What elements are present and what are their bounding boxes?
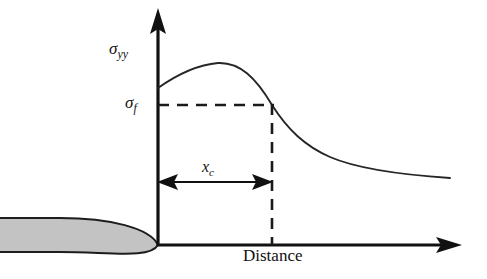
- y-axis-label: σyy: [109, 40, 128, 61]
- x-axis-label: Distance: [243, 247, 302, 264]
- notch-shape: [0, 218, 158, 254]
- threshold-stress-label: σf: [125, 94, 137, 115]
- threshold-subscript: f: [133, 101, 137, 115]
- critical-distance-subscript: c: [209, 166, 214, 178]
- critical-distance-label: xc: [202, 159, 214, 178]
- stress-distribution-figure: σyy σf xc Distance: [0, 0, 487, 279]
- figure-canvas: [0, 0, 487, 279]
- y-axis-subscript: yy: [117, 47, 128, 61]
